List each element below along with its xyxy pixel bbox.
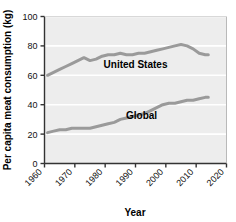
series-label-global: Global — [126, 110, 157, 121]
series-label-united-states: United States — [104, 59, 168, 70]
y-tick-label-80: 80 — [27, 41, 37, 51]
meat-consumption-line-chart: 020406080100 196019701980199020002010202… — [0, 0, 236, 222]
plot-area-background — [45, 17, 227, 164]
x-axis-title: Year — [124, 207, 145, 218]
y-axis-title: Per capita meat consumption (kg) — [2, 10, 13, 171]
y-tick-label-20: 20 — [27, 130, 37, 140]
y-tick-label-40: 40 — [27, 100, 37, 110]
plot-area — [45, 17, 227, 164]
y-tick-label-60: 60 — [27, 71, 37, 81]
chart-container: 020406080100 196019701980199020002010202… — [0, 0, 236, 222]
y-tick-label-100: 100 — [22, 12, 37, 22]
